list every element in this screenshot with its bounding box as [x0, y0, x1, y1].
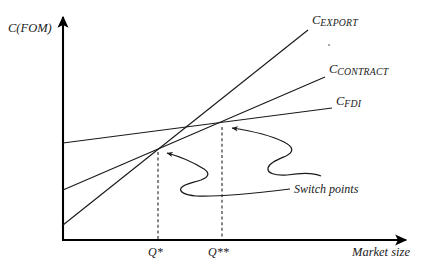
- curve-label-c-fdi: CFDI: [336, 95, 361, 108]
- curve-label-c-export: CEXPORT: [312, 14, 358, 27]
- x-tick-label-q-star-text: Q*: [148, 245, 163, 259]
- switch-points-leader-lower: [167, 153, 290, 196]
- x-tick-label-q-star-star-text: Q**: [208, 245, 229, 259]
- x-tick-label-q-star-star: Q**: [208, 246, 229, 258]
- curve-label-c-contract: CCONTRACT: [329, 63, 388, 76]
- switch-points-leader-upper: [232, 128, 321, 176]
- y-axis-label: C(FOM): [8, 22, 52, 35]
- curve-label-c-fdi-subscript: FDI: [344, 98, 361, 109]
- curve-label-c-export-subscript: EXPORT: [320, 17, 358, 28]
- switch-points-annotation: Switch points: [294, 183, 358, 195]
- diagram-canvas: C(FOM) Market size CEXPORT CCONTRACT CFD…: [0, 0, 425, 274]
- curve-c-contract: [63, 77, 325, 190]
- curve-label-c-contract-subscript: CONTRACT: [337, 66, 388, 77]
- x-axis-label: Market size: [352, 246, 410, 259]
- diagram-svg: [0, 0, 425, 274]
- curve-c-fdi: [63, 108, 332, 143]
- scan-artifact-speck: [328, 44, 330, 46]
- x-tick-label-q-star: Q*: [148, 246, 163, 258]
